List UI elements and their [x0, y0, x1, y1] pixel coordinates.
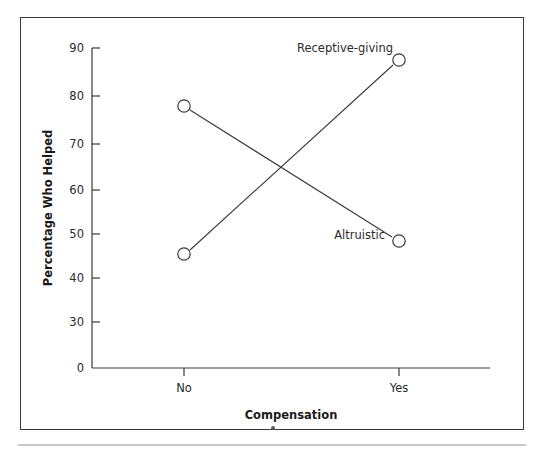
series-label-receptive-giving: Receptive-giving	[297, 41, 393, 55]
y-tick-label-70: 70	[69, 137, 84, 151]
y-tick-label-40: 40	[69, 271, 84, 285]
y-tick-label-30: 30	[69, 315, 84, 329]
y-tick-label-0: 0	[77, 361, 84, 375]
x-tick-label-no: No	[176, 381, 192, 395]
data-point-receptive-giving-no	[178, 248, 190, 260]
data-point-altruistic-no	[178, 100, 190, 112]
series-label-altruistic: Altruistic	[334, 228, 385, 242]
y-tick-label-90: 90	[69, 41, 84, 55]
y-tick-label-60: 60	[69, 183, 84, 197]
series-line-altruistic	[190, 110, 392, 237]
y-axis-title: Percentage Who Helped	[41, 130, 55, 286]
line-chart: 90 80 70 60 50 40 30 0 No Yes Compensati…	[0, 0, 544, 453]
series-line-receptive-giving	[190, 65, 393, 250]
y-tick-label-50: 50	[69, 227, 84, 241]
x-tick-label-yes: Yes	[389, 381, 409, 395]
data-point-altruistic-yes	[393, 235, 405, 247]
y-tick-label-80: 80	[69, 89, 84, 103]
data-point-receptive-giving-yes	[393, 54, 405, 66]
figure-root: 90 80 70 60 50 40 30 0 No Yes Compensati…	[0, 0, 544, 453]
x-axis-title: Compensation	[245, 408, 338, 422]
